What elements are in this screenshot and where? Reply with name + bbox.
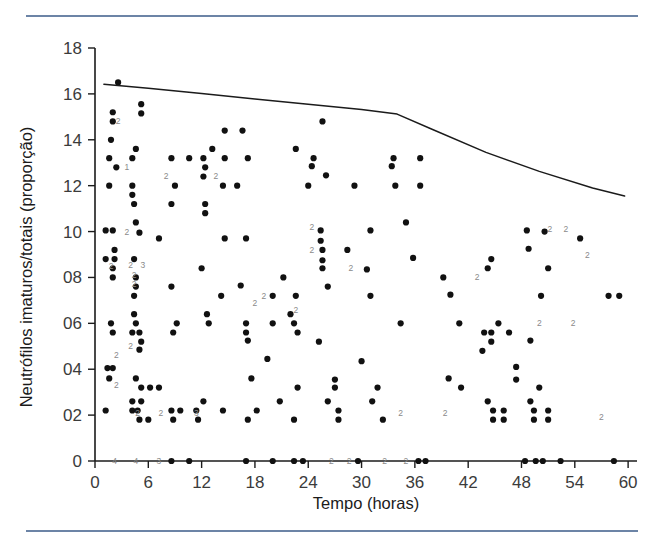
point-count-label: 2	[398, 408, 403, 418]
scatter-point	[110, 329, 116, 335]
point-count-label: 2	[404, 456, 409, 466]
scatter-point	[206, 320, 212, 326]
x-tick-label: 24	[299, 473, 318, 492]
scatter-point	[133, 320, 139, 326]
scatter-point	[501, 407, 507, 413]
y-tick-label: 12	[63, 177, 82, 196]
scatter-point	[222, 235, 228, 241]
point-count-label: 2	[349, 263, 354, 273]
scatter-point	[147, 384, 153, 390]
scatter-point	[168, 407, 174, 413]
scatter-point	[136, 347, 142, 353]
y-axis-title: Neutrófilos imaturos/totais (proporção)	[17, 127, 35, 408]
point-count-label: 2	[109, 261, 114, 271]
scatter-point	[245, 337, 251, 343]
scatter-point	[129, 329, 135, 335]
scatter-point	[294, 329, 300, 335]
scatter-point	[417, 155, 423, 161]
point-count-label: 2	[571, 318, 576, 328]
scatter-point	[243, 235, 249, 241]
scatter-point	[202, 201, 208, 207]
scatter-point	[145, 417, 151, 423]
scatter-point	[332, 384, 338, 390]
scatter-point	[108, 320, 114, 326]
scatter-point	[545, 265, 551, 271]
scatter-point	[138, 110, 144, 116]
scatter-point	[403, 219, 409, 225]
scatter-point	[374, 384, 380, 390]
scatter-point	[389, 163, 395, 169]
scatter-point	[355, 458, 361, 464]
x-tick-label: 42	[459, 473, 478, 492]
scatter-point	[245, 417, 251, 423]
scatter-point	[527, 398, 533, 404]
scatter-point	[270, 458, 276, 464]
scatter-point	[531, 417, 537, 423]
point-count-label: 2	[114, 350, 119, 360]
scatter-point	[222, 128, 228, 134]
scatter-point	[293, 293, 299, 299]
scatter-point	[323, 172, 329, 178]
scatter-point	[108, 137, 114, 143]
x-axis-ticks: 06121824303642485460	[90, 461, 637, 492]
scatter-point	[248, 375, 254, 381]
scatter-point	[106, 183, 112, 189]
scatter-point	[533, 458, 539, 464]
scatter-point	[131, 293, 137, 299]
scatter-point	[309, 163, 315, 169]
scatter-point	[168, 155, 174, 161]
scatter-point	[202, 164, 208, 170]
chart-canvas: 0020406081012141618 06121824303642485460…	[0, 22, 662, 522]
x-tick-label: 48	[512, 473, 531, 492]
scatter-point	[479, 348, 485, 354]
scatter-point	[243, 320, 249, 326]
scatter-point	[204, 311, 210, 317]
point-count-label: 2	[293, 305, 298, 315]
scatter-point	[138, 398, 144, 404]
scatter-point	[177, 407, 183, 413]
y-tick-label: 10	[63, 223, 82, 242]
y-tick-label: 08	[63, 268, 82, 287]
point-count-label: 2	[382, 456, 387, 466]
scatter-point	[316, 339, 322, 345]
x-tick-label: 36	[405, 473, 424, 492]
scatter-point	[129, 155, 135, 161]
scatter-point	[168, 284, 174, 290]
scatter-point	[488, 329, 494, 335]
point-count-label: 2	[132, 279, 137, 289]
scatter-point	[490, 407, 496, 413]
scatter-point	[291, 417, 297, 423]
scatter-point	[218, 293, 224, 299]
page-rule-bottom	[26, 530, 638, 532]
scatter-point	[156, 384, 162, 390]
scatter-point	[305, 183, 311, 189]
scatter-point	[616, 293, 622, 299]
scatter-point	[238, 282, 244, 288]
scatter-point	[440, 274, 446, 280]
scatter-point	[335, 417, 341, 423]
x-tick-label: 54	[565, 473, 584, 492]
scatter-point	[501, 417, 507, 423]
scatter-point	[110, 109, 116, 115]
y-tick-label: 06	[63, 314, 82, 333]
scatter-point	[358, 358, 364, 364]
point-count-label: 2	[537, 318, 542, 328]
scatter-point	[398, 320, 404, 326]
scatter-point	[545, 407, 551, 413]
scatter-point	[220, 407, 226, 413]
scatter-point	[186, 458, 192, 464]
scatter-point	[294, 384, 300, 390]
scatter-point	[156, 235, 162, 241]
scatter-plot-figure: 0020406081012141618 06121824303642485460…	[0, 22, 662, 522]
scatter-point	[136, 230, 142, 236]
scatter-point	[557, 458, 563, 464]
scatter-point	[129, 398, 135, 404]
scatter-point	[168, 458, 174, 464]
scatter-point	[351, 183, 357, 189]
point-count-label: 2	[443, 408, 448, 418]
scatter-point	[280, 274, 286, 280]
scatter-point	[611, 458, 617, 464]
scatter-point	[367, 227, 373, 233]
scatter-point	[447, 292, 453, 298]
scatter-point	[110, 227, 116, 233]
